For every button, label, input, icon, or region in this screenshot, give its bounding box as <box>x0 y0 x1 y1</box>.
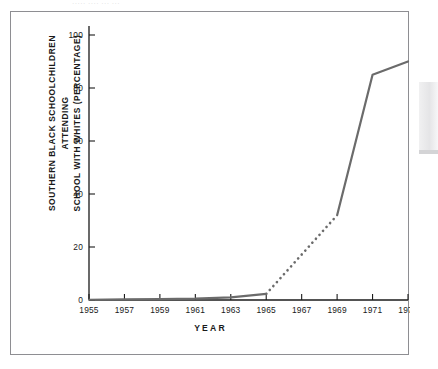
x-axis-tick-label: 1963 <box>221 305 241 315</box>
caption-remnant-text: ····· ···· ··· ··· <box>72 0 192 7</box>
y-axis-title: SOUTHERN BLACK SCHOOLCHILDREN ATTENDING … <box>46 18 76 228</box>
x-axis-tick-label: 1973 <box>398 305 410 315</box>
data-line-solid <box>337 62 408 216</box>
x-axis-tick-label: 1967 <box>292 305 312 315</box>
figure-root: ····· ···· ··· ··· 020406080100195519571… <box>0 0 438 369</box>
x-axis-tick-label: 1965 <box>257 305 277 315</box>
x-axis-tick-label: 1957 <box>115 305 135 315</box>
x-axis-tick-label: 1969 <box>327 305 347 315</box>
page-edge-artifact <box>419 82 438 150</box>
data-line-dotted <box>266 215 337 294</box>
page-edge-artifact-band <box>419 150 438 154</box>
plot-area: 0204060801001955195719591961196319651967… <box>11 12 410 356</box>
y-axis-tick-label: 20 <box>73 242 83 252</box>
x-axis-tick-label: 1959 <box>150 305 170 315</box>
x-axis-tick-label: 1955 <box>79 305 99 315</box>
x-axis-title: YEAR <box>11 323 410 333</box>
data-line-solid <box>89 294 266 300</box>
figure-frame: 0204060801001955195719591961196319651967… <box>10 11 409 355</box>
x-axis-tick-label: 1971 <box>363 305 383 315</box>
x-axis-tick-label: 1961 <box>186 305 206 315</box>
